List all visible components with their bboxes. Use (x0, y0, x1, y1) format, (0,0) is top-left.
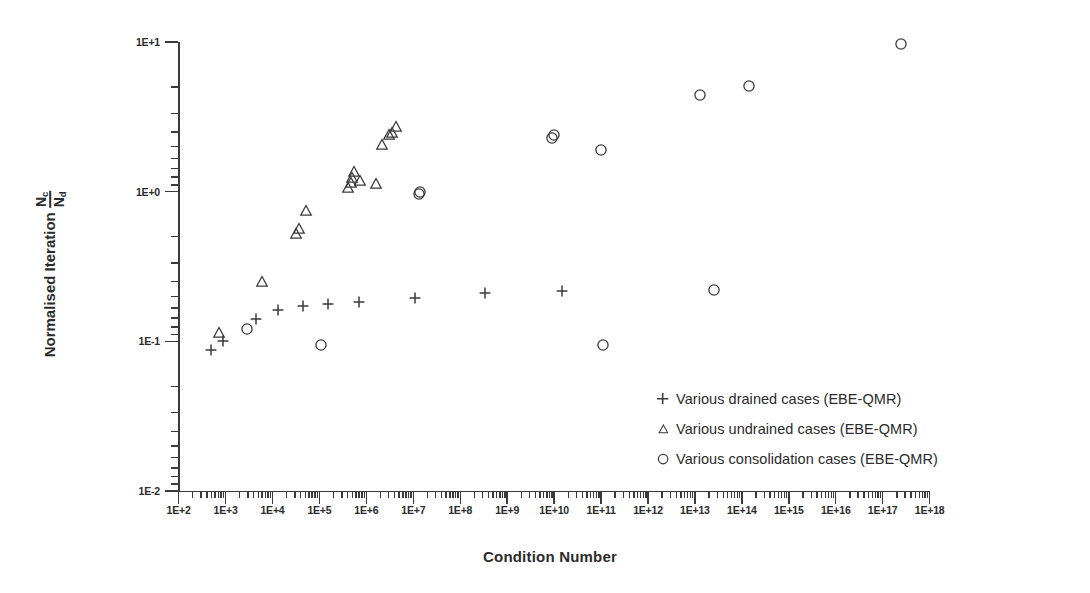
y-tick-minor (171, 281, 178, 282)
x-tick-minor (717, 491, 718, 498)
y-tick-minor (171, 262, 178, 263)
legend-row: Various drained cases (EBE-QMR) (650, 384, 938, 414)
data-point-triangle (342, 182, 355, 195)
x-tick-minor (568, 491, 569, 498)
x-tick-minor (877, 491, 878, 498)
x-tick-minor (816, 491, 817, 498)
x-tick-minor (394, 491, 395, 498)
data-point-circle (596, 339, 609, 352)
data-point-plus (322, 299, 333, 310)
x-tick-minor (220, 491, 221, 498)
x-tick-minor (499, 491, 500, 498)
x-tick-minor (637, 491, 638, 498)
x-tick-major (553, 491, 554, 504)
x-tick-minor (614, 491, 615, 498)
x-tick-minor (623, 491, 624, 498)
x-tick-minor (731, 491, 732, 498)
x-tick-minor (352, 491, 353, 498)
data-point-plus (479, 288, 490, 299)
x-tick-minor (633, 491, 634, 498)
y-axis-title-text: Normalised Iteration (42, 212, 59, 357)
x-tick-minor (286, 491, 287, 498)
x-tick-minor (347, 491, 348, 498)
y-tick-major (165, 191, 178, 192)
numerator-subscript: c (39, 192, 50, 197)
y-tick-label: 1E-2 (98, 485, 160, 497)
legend-label: Various undrained cases (EBE-QMR) (676, 421, 918, 437)
data-point-triangle (344, 176, 357, 189)
x-tick-minor (441, 491, 442, 498)
y-tick-minor (171, 86, 178, 87)
data-point-plus (557, 286, 568, 297)
legend-label: Various consolidation cases (EBE-QMR) (676, 451, 938, 467)
x-tick-minor (258, 491, 259, 498)
x-tick-minor (708, 491, 709, 498)
x-tick-minor (643, 491, 644, 498)
x-tick-minor (267, 491, 268, 498)
x-tick-minor (539, 491, 540, 498)
x-tick-minor (192, 491, 193, 498)
x-tick-minor (737, 491, 738, 498)
x-tick-minor (265, 491, 266, 498)
x-tick-minor (549, 491, 550, 498)
data-point-plus (206, 345, 217, 356)
x-tick-minor (521, 491, 522, 498)
x-tick-minor (239, 491, 240, 498)
x-tick-minor (774, 491, 775, 498)
x-tick-minor (247, 491, 248, 498)
x-tick-label: 1E+14 (727, 504, 757, 516)
x-tick-minor (922, 491, 923, 498)
y-tick-label: 1E+1 (98, 36, 160, 48)
x-tick-major (600, 491, 601, 504)
x-tick-minor (723, 491, 724, 498)
x-tick-minor (529, 491, 530, 498)
legend-circle-icon (650, 453, 676, 465)
x-tick-minor (492, 491, 493, 498)
x-tick-minor (875, 491, 876, 498)
x-tick-label: 1E+10 (539, 504, 569, 516)
x-tick-minor (445, 491, 446, 498)
y-axis-spine (178, 42, 180, 492)
legend-label: Various drained cases (EBE-QMR) (676, 391, 901, 407)
x-tick-label: 1E+18 (915, 504, 945, 516)
y-tick-label: 1E-1 (98, 335, 160, 347)
x-tick-major (741, 491, 742, 504)
y-tick-minor (171, 131, 178, 132)
x-tick-label: 1E+12 (633, 504, 663, 516)
y-tick-minor (171, 483, 178, 484)
y-tick-minor (171, 236, 178, 237)
x-tick-minor (684, 491, 685, 498)
y-tick-minor (171, 113, 178, 114)
x-tick-major (413, 491, 414, 504)
x-tick-minor (784, 491, 785, 498)
x-tick-minor (576, 491, 577, 498)
data-point-plus (298, 300, 309, 311)
x-tick-major (929, 491, 930, 504)
data-point-circle (545, 131, 558, 144)
x-tick-minor (452, 491, 453, 498)
y-tick-minor (171, 146, 178, 147)
y-tick-minor (171, 317, 178, 318)
x-tick-minor (408, 491, 409, 498)
data-point-plus (272, 304, 283, 315)
x-tick-minor (314, 491, 315, 498)
x-tick-minor (214, 491, 215, 498)
fraction-numerator: Nc (34, 191, 48, 208)
x-tick-minor (502, 491, 503, 498)
data-point-triangle (353, 174, 366, 187)
data-point-circle (707, 283, 720, 296)
x-tick-minor (680, 491, 681, 498)
x-tick-major (647, 491, 648, 504)
legend-triangle-icon (650, 424, 676, 435)
y-tick-minor (171, 334, 178, 335)
data-point-triangle (383, 128, 396, 141)
y-tick-minor (171, 307, 178, 308)
x-tick-major (225, 491, 226, 504)
x-tick-major (506, 491, 507, 504)
x-tick-minor (596, 491, 597, 498)
x-tick-minor (586, 491, 587, 498)
x-tick-label: 1E+7 (401, 504, 425, 516)
data-point-plus (354, 296, 365, 307)
x-tick-minor (535, 491, 536, 498)
x-tick-label: 1E+15 (774, 504, 804, 516)
